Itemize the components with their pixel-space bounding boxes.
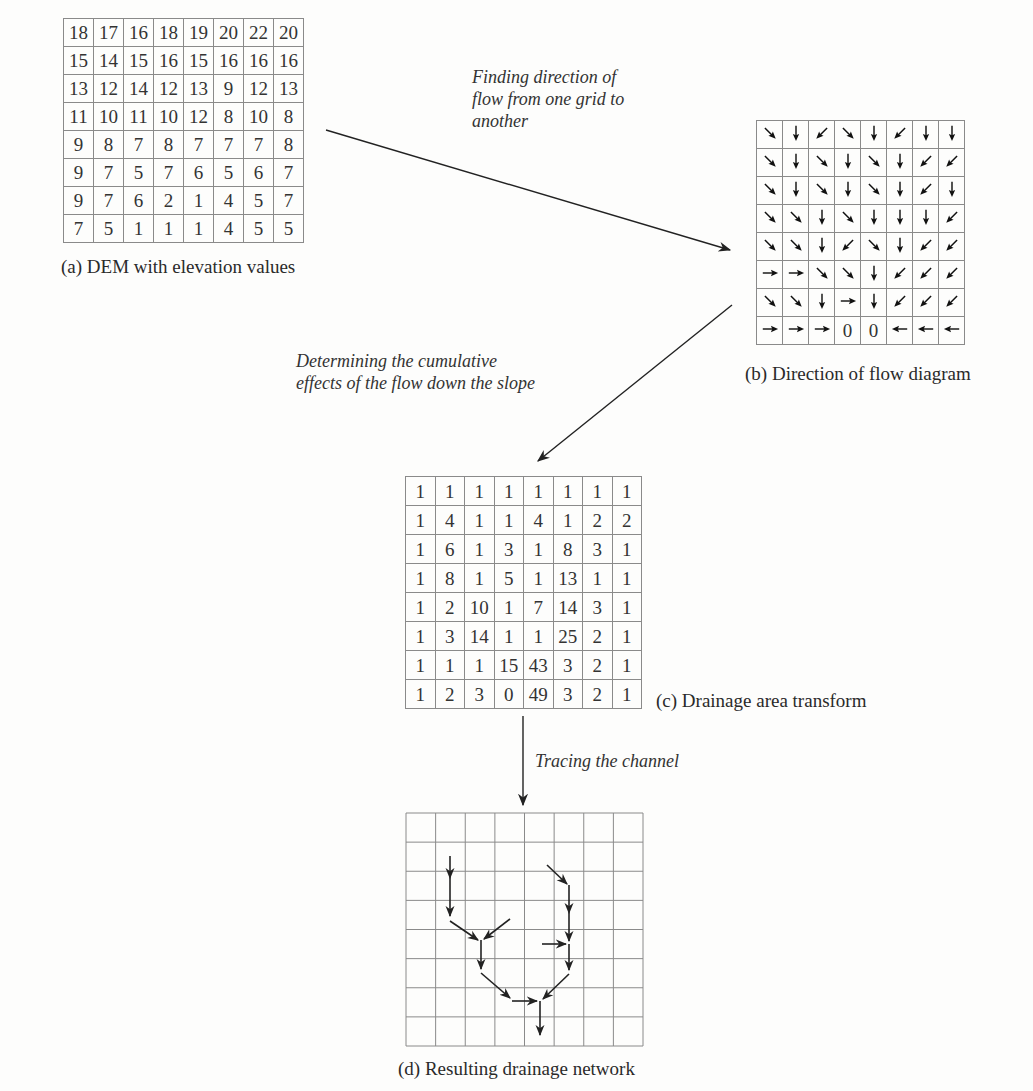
diagram-overlay bbox=[0, 0, 1033, 1091]
transition-arrow-b-to-c bbox=[538, 305, 732, 461]
drainage-network-grid bbox=[406, 813, 643, 1046]
drainage-network-channels bbox=[450, 856, 569, 1035]
transition-arrow-a-to-b bbox=[326, 130, 730, 250]
